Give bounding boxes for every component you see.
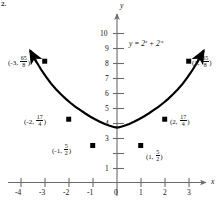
graph-canvas <box>0 0 224 202</box>
y-tick-label-6: 6 <box>105 90 109 98</box>
fraction-numerator: 5 <box>64 143 68 150</box>
x-tick-label--3: -3 <box>39 189 45 197</box>
y-tick-label-9: 9 <box>105 45 109 53</box>
equation-exponent-2: -x <box>160 39 164 44</box>
fraction: 658 <box>20 55 27 68</box>
fraction-denominator: 8 <box>202 62 209 68</box>
fraction: 174 <box>36 114 43 127</box>
point-label--3: (-3, 658) <box>8 55 30 68</box>
data-point <box>162 117 167 122</box>
x-tick-label--4: -4 <box>15 189 21 197</box>
point-label-1: (1, 52) <box>146 149 163 162</box>
comma: , <box>60 147 64 155</box>
x-axis-name: x <box>211 178 214 186</box>
paren-close: ) <box>69 147 71 155</box>
data-point <box>66 117 71 122</box>
data-point <box>186 59 191 64</box>
fraction: 174 <box>180 114 187 127</box>
data-point <box>138 143 143 148</box>
x-tick-label-3: 3 <box>187 189 191 197</box>
point-label--2: (-2, 174) <box>24 114 46 127</box>
paren-close: ) <box>44 118 46 126</box>
y-tick-label-8: 8 <box>105 60 109 68</box>
data-point <box>90 143 95 148</box>
x-tick-label-1: 1 <box>139 189 143 197</box>
paren-close: ) <box>209 59 211 67</box>
fraction-numerator: 65 <box>202 55 209 62</box>
equation-equals: = <box>132 39 141 48</box>
y-tick-label-10: 10 <box>100 30 108 38</box>
data-point <box>42 59 47 64</box>
x-tick-label--2: -2 <box>63 189 69 197</box>
paren-close: ) <box>187 118 189 126</box>
x-tick-label-0: 0 <box>114 189 118 197</box>
comma: , <box>198 59 202 67</box>
fraction: 52 <box>64 143 68 156</box>
y-tick-label-5: 5 <box>105 105 109 113</box>
point-label-3: (3, 658) <box>192 55 212 68</box>
equation-plus: + <box>147 39 156 48</box>
y-axis-name: y <box>120 2 123 10</box>
fraction-denominator: 2 <box>64 150 68 156</box>
fraction-denominator: 8 <box>20 62 27 68</box>
y-tick-label-4: 4 <box>105 120 109 128</box>
fraction-denominator: 4 <box>36 121 43 127</box>
comma: , <box>16 59 20 67</box>
fraction-numerator: 17 <box>36 114 43 121</box>
x-tick-label--1: -1 <box>87 189 93 197</box>
paren-close: ) <box>28 59 30 67</box>
fraction-numerator: 17 <box>180 114 187 121</box>
fraction-numerator: 65 <box>20 55 27 62</box>
fraction-denominator: 4 <box>180 121 187 127</box>
fraction: 658 <box>202 55 209 68</box>
comma: , <box>176 118 180 126</box>
equation-label: y = 2x + 2-x <box>129 40 164 48</box>
comma: , <box>152 153 156 161</box>
point-label--1: (-1, 52) <box>52 143 71 156</box>
comma: , <box>32 118 36 126</box>
x-tick-label-2: 2 <box>163 189 167 197</box>
x-axis <box>8 178 206 187</box>
point-label-2: (2, 174) <box>170 114 190 127</box>
y-tick-label-3: 3 <box>105 135 109 143</box>
y-axis <box>113 14 124 196</box>
y-tick-label-1: 1 <box>105 165 109 173</box>
paren-close: ) <box>160 153 162 161</box>
figure-container: 2. <box>0 0 224 202</box>
y-tick-label-7: 7 <box>105 75 109 83</box>
